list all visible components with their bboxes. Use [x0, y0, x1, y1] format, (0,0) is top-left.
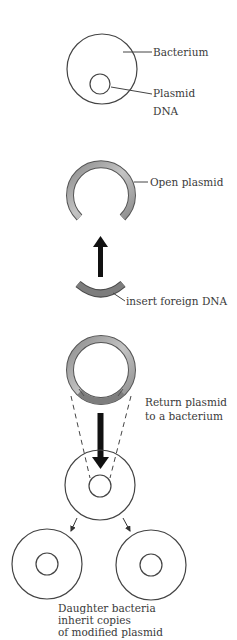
up-arrow [93, 236, 108, 277]
open-plasmid-label: Open plasmid [150, 176, 224, 188]
return-plasmid-label: Return plasmid [145, 396, 227, 408]
recombinant-plasmid: Return plasmid to a bacterium [70, 339, 227, 422]
daughter-caption-line3: of modified plasmid [58, 626, 163, 638]
daughter-bacterium-right [116, 530, 186, 600]
plasmid-cloning-diagram: Bacterium Plasmid DNA Open plasmid inser… [0, 0, 237, 640]
foreign-dna-label: insert foreign DNA [126, 295, 228, 307]
bacterium-with-plasmid: Bacterium Plasmid DNA [67, 34, 208, 117]
plasmid-label: Plasmid [153, 87, 195, 99]
daughter-caption-line2: inherit copies [58, 614, 131, 626]
return-plasmid-label-line2: to a bacterium [145, 410, 223, 422]
daughter-caption-line1: Daughter bacteria [58, 602, 156, 614]
plasmid-label-line2: DNA [153, 105, 179, 117]
daughter-caption: Daughter bacteria inherit copies of modi… [58, 602, 163, 638]
bacterium-label: Bacterium [153, 46, 208, 58]
foreign-dna-segment: insert foreign DNA [78, 284, 228, 307]
foreign-dna-leader-line [113, 293, 125, 301]
plasmid-dna [90, 74, 110, 94]
daughter-bacterium-left [12, 529, 82, 599]
open-plasmid: Open plasmid [70, 164, 224, 217]
down-arrow [92, 413, 109, 469]
